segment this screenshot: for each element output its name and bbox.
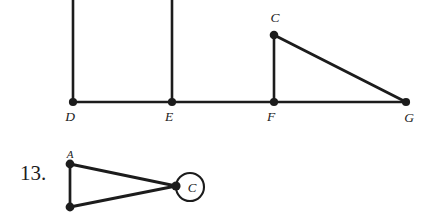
vertex-label-F: F [266, 109, 276, 124]
vertex-label-G: G [404, 110, 414, 125]
vertex-label-D: D [64, 109, 75, 124]
vertex-dot-C-top [270, 31, 279, 40]
vertex-dot-F [270, 98, 278, 106]
vertex-label-C-top: C [270, 10, 280, 25]
vertex-dot-A [66, 160, 75, 169]
vertex-label-C-bottom: C [188, 180, 197, 195]
vertex-label-A: A [66, 148, 74, 160]
vertex-label-E: E [164, 109, 174, 124]
vertex-dot-E [168, 98, 176, 106]
vertex-dot-G [402, 98, 410, 106]
vertex-dot-C-bottom [171, 181, 180, 190]
vertex-dot-B [66, 203, 75, 212]
geometry-figures-canvas: D E F G C 13. A C [0, 0, 429, 220]
problem-number-13: 13. [20, 161, 46, 185]
vertex-dot-D [69, 98, 77, 106]
